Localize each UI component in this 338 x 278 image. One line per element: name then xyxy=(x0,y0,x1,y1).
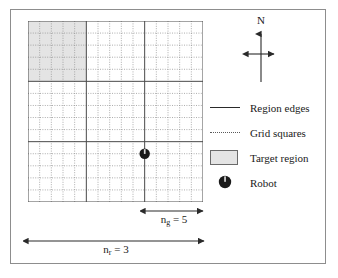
dimension-ng-subscript: g xyxy=(166,218,170,227)
figure-canvas: N Region edges xyxy=(0,0,338,278)
legend: Region edges Grid squares Target region … xyxy=(208,95,326,195)
legend-label-robot: Robot xyxy=(244,177,277,189)
dimension-nr-value: 3 xyxy=(123,243,129,255)
grid-map-svg xyxy=(28,21,203,202)
compass-north-label: N xyxy=(233,14,289,26)
dimension-ng-equals: = xyxy=(173,213,179,225)
robot-marker-icon xyxy=(218,175,232,189)
legend-item-target-region: Target region xyxy=(208,145,326,170)
robot-marker xyxy=(139,149,149,159)
compass-rose: N xyxy=(233,14,289,86)
dimension-nr-subscript: r xyxy=(109,248,112,257)
dotted-line-icon xyxy=(210,132,240,133)
dimension-ng-label: ng = 5 xyxy=(140,213,208,227)
solid-line-icon xyxy=(210,107,240,108)
legend-key-grid-squares xyxy=(208,122,244,144)
grid-map xyxy=(28,21,203,202)
legend-label-target-region: Target region xyxy=(244,152,309,164)
dimension-nr-label: nr = 3 xyxy=(23,243,209,257)
target-region-shading xyxy=(28,21,86,81)
legend-label-grid-squares: Grid squares xyxy=(244,127,306,139)
legend-key-robot xyxy=(208,172,244,194)
legend-item-grid-squares: Grid squares xyxy=(208,120,326,145)
dimension-nr: nr = 3 xyxy=(23,233,209,259)
dimension-nr-equals: = xyxy=(114,243,120,255)
dimension-ng-value: 5 xyxy=(182,213,188,225)
legend-key-region-edges xyxy=(208,97,244,119)
shaded-rectangle-icon xyxy=(210,150,238,165)
legend-item-robot: Robot xyxy=(208,170,326,195)
dimension-ng: ng = 5 xyxy=(140,203,208,229)
legend-key-target-region xyxy=(208,147,244,169)
legend-item-region-edges: Region edges xyxy=(208,95,326,120)
legend-label-region-edges: Region edges xyxy=(244,102,310,114)
